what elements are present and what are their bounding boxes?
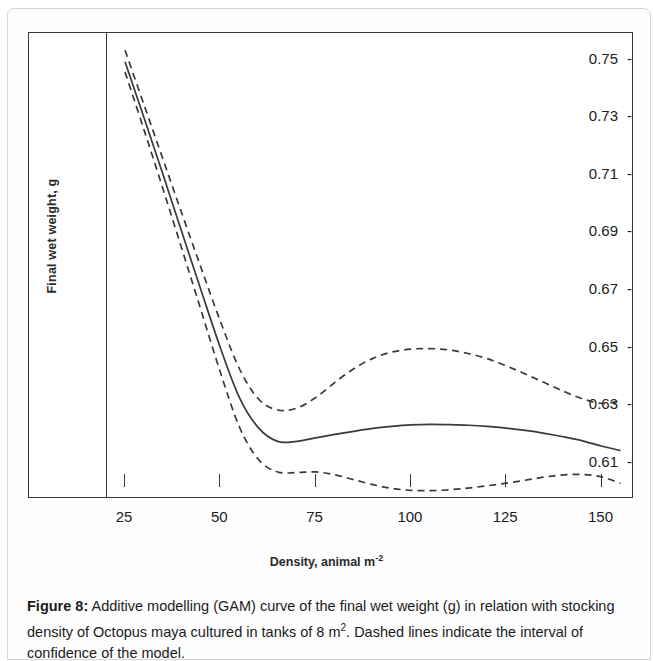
x-tick-mark bbox=[124, 474, 125, 487]
caption-label: Figure 8: bbox=[27, 598, 88, 614]
x-axis-title-main: Density, animal m bbox=[270, 555, 375, 569]
chart-frame: Final wet weight, g 0.75-0.73-0.71-0.69-… bbox=[28, 32, 633, 498]
plot-svg bbox=[106, 33, 632, 497]
x-tick-label: 125 bbox=[493, 508, 518, 525]
plot-canvas bbox=[106, 33, 632, 497]
series-line-0 bbox=[125, 62, 621, 451]
x-tick-mark bbox=[505, 474, 506, 487]
x-tick-mark bbox=[219, 474, 220, 487]
x-tick-label: 50 bbox=[211, 508, 228, 525]
figure-caption: Figure 8: Additive modelling (GAM) curve… bbox=[27, 596, 627, 661]
x-axis-title: Density, animal m-2 bbox=[0, 553, 653, 569]
x-tick-mark bbox=[410, 474, 411, 487]
x-tick-mark bbox=[601, 474, 602, 487]
y-axis-title: Final wet weight, g bbox=[45, 161, 59, 311]
figure-area: Final wet weight, g 0.75-0.73-0.71-0.69-… bbox=[0, 0, 653, 585]
x-tick-label: 25 bbox=[116, 508, 133, 525]
x-axis-title-superscript: -2 bbox=[375, 553, 383, 563]
x-tick-mark bbox=[315, 474, 316, 487]
x-tick-label: 100 bbox=[397, 508, 422, 525]
series-line-1 bbox=[125, 50, 621, 410]
x-tick-label: 150 bbox=[588, 508, 613, 525]
x-tick-label: 75 bbox=[306, 508, 323, 525]
